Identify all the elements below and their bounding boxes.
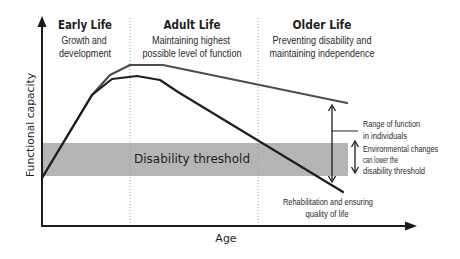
range-note-line2: in individuals xyxy=(363,131,407,141)
y-axis-label: Functional capacity xyxy=(24,73,37,177)
phase-description-line1: Maintaining highest xyxy=(152,34,230,46)
disability-threshold-label: Disability threshold xyxy=(134,151,250,166)
phase-early-life: Early Life Growth and development xyxy=(58,17,112,59)
range-note-line1: Range of function xyxy=(363,119,420,129)
phase-description-line2: possible level of function xyxy=(143,47,242,59)
phase-description-line2: maintaining independence xyxy=(270,47,375,59)
phase-title: Adult Life xyxy=(164,17,221,32)
phase-description-line2: development xyxy=(59,47,111,59)
x-axis-label: Age xyxy=(215,232,237,245)
functional-capacity-diagram: Disability threshold Early Life Growth a… xyxy=(0,0,460,259)
phase-description-line1: Growth and xyxy=(62,34,107,46)
environmental-changes-arrow xyxy=(352,141,359,173)
phase-title: Early Life xyxy=(58,17,112,32)
environment-note-line1: Environmental changes xyxy=(363,144,438,154)
rehab-note-line2: quality of life xyxy=(306,209,349,219)
y-axis-arrow-icon xyxy=(38,16,47,27)
x-axis-arrow-icon xyxy=(405,222,417,231)
y-axis xyxy=(38,16,47,226)
rehab-note-line1: Rehabilitation and ensuring xyxy=(283,197,373,207)
phase-older-life: Older Life Preventing disability and mai… xyxy=(270,17,375,59)
x-axis xyxy=(41,222,417,231)
environment-note-line2: can lower the xyxy=(363,155,398,165)
phase-adult-life: Adult Life Maintaining highest possible … xyxy=(143,17,242,59)
environment-note-line3: disability threshold xyxy=(363,166,425,176)
phase-title: Older Life xyxy=(293,17,352,32)
phase-description-line1: Preventing disability and xyxy=(273,34,372,46)
